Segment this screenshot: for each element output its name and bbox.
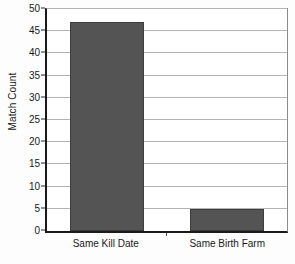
bar-slot [167, 9, 287, 231]
bar-chart: Match Count 05101520253035404550 Same Ki… [0, 0, 295, 264]
y-axis-tick-mark [41, 8, 45, 9]
y-axis-tick-label: 25 [14, 114, 40, 125]
y-axis-tick-label: 5 [14, 202, 40, 213]
y-axis-tick-label: 40 [14, 47, 40, 58]
y-axis-tick-mark [41, 185, 45, 186]
y-axis-tick-mark [41, 163, 45, 164]
x-axis-tick-labels: Same Kill DateSame Birth Farm [45, 238, 288, 249]
y-axis-tick-label: 0 [14, 225, 40, 236]
y-axis-tick-label: 50 [14, 3, 40, 14]
y-axis-tick-mark [41, 141, 45, 142]
y-axis-tick-label: 30 [14, 91, 40, 102]
x-axis-center-tick [166, 233, 167, 236]
y-axis-tick-label: 15 [14, 158, 40, 169]
bar[interactable] [70, 22, 144, 231]
y-axis-tick-label: 35 [14, 69, 40, 80]
y-axis-tick-mark [41, 74, 45, 75]
y-axis-tick-labels: 05101520253035404550 [14, 8, 40, 233]
y-axis-tick-label: 45 [14, 25, 40, 36]
y-axis-tick-mark [41, 96, 45, 97]
y-axis-tick-label: 20 [14, 136, 40, 147]
x-axis-tick-label: Same Kill Date [45, 238, 167, 249]
y-axis-tick-mark [41, 30, 45, 31]
y-axis-tick-mark [41, 207, 45, 208]
y-axis-tick-mark [41, 52, 45, 53]
x-axis-tick-label: Same Birth Farm [167, 238, 289, 249]
bar[interactable] [190, 209, 264, 231]
bars-layer [47, 9, 287, 231]
bar-slot [47, 9, 167, 231]
y-axis-tick-mark [41, 119, 45, 120]
y-axis-tick-label: 10 [14, 180, 40, 191]
plot-area [45, 8, 288, 233]
y-axis-tick-mark [41, 230, 45, 231]
